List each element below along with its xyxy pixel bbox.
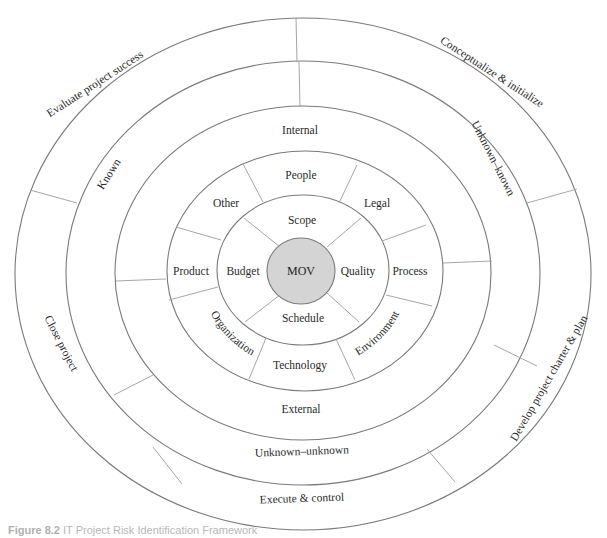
risk-legal: Legal (364, 197, 390, 210)
objective-budget: Budget (226, 265, 260, 278)
objective-quality: Quality (341, 265, 376, 278)
risk-product: Product (173, 265, 210, 277)
objective-scope: Scope (288, 214, 316, 227)
risk-identification-framework-diagram: MOV Scope Quality Schedule Budget People… (0, 0, 607, 538)
caption-text: IT Project Risk Identification Framework (63, 524, 257, 536)
label-external: External (282, 403, 321, 415)
risk-other: Other (213, 197, 239, 209)
risk-people: People (285, 169, 316, 182)
risk-process: Process (392, 265, 428, 277)
mov-label: MOV (287, 264, 315, 278)
figure-caption: Figure 8.2 IT Project Risk Identificatio… (8, 524, 257, 536)
caption-label: Figure 8.2 (8, 524, 60, 536)
risk-technology: Technology (273, 359, 327, 372)
label-internal: Internal (282, 124, 318, 136)
objective-schedule: Schedule (282, 312, 324, 324)
